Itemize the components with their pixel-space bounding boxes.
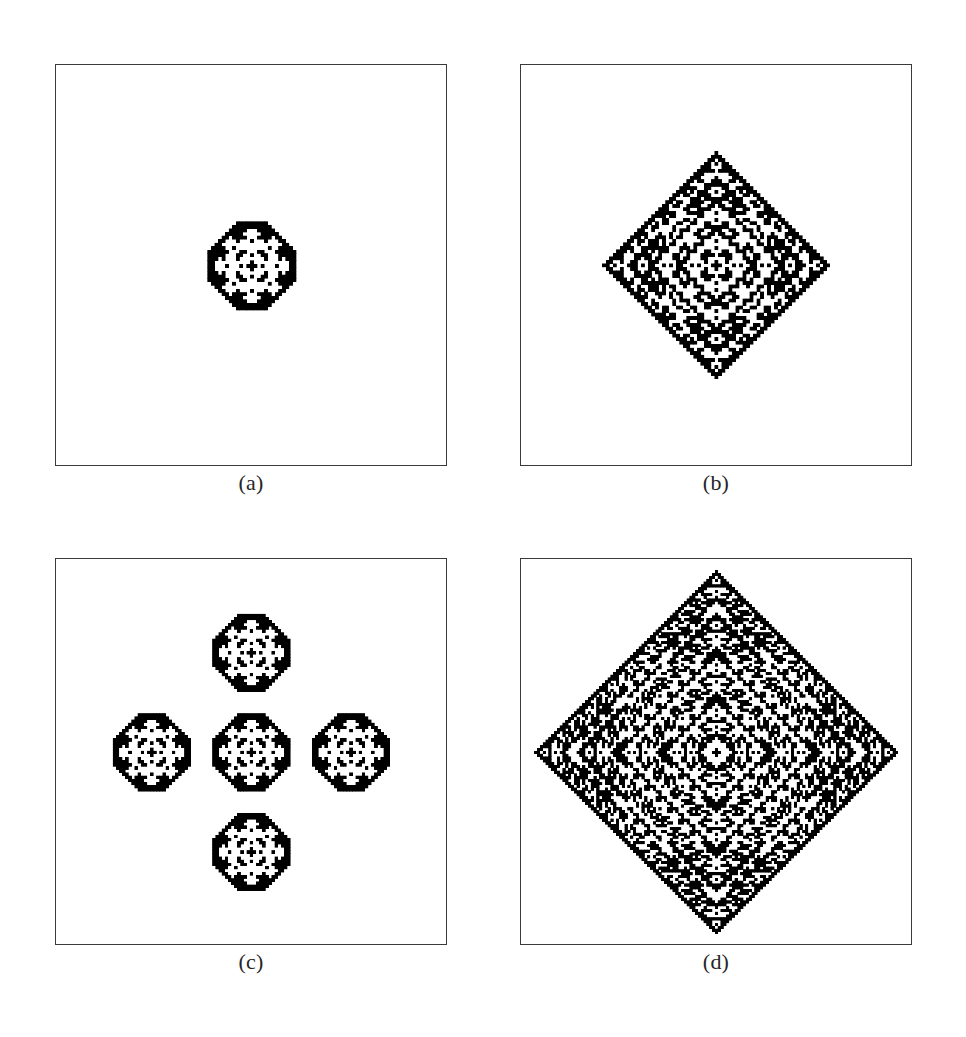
pattern-canvas-a (193, 207, 310, 324)
panel-b-caption: (b) (520, 470, 912, 496)
panel-d-caption: (d) (520, 949, 912, 975)
pattern-canvas-b (602, 151, 830, 379)
panel-d: (d) (520, 558, 912, 945)
panel-a: (a) (55, 64, 447, 466)
figure-container: (a) (b) (c) (d) (0, 0, 966, 1037)
pattern-canvas-d (534, 570, 898, 934)
panel-b: (b) (520, 64, 912, 466)
panel-a-caption: (a) (55, 470, 447, 496)
pattern-canvas-c (100, 601, 402, 903)
panel-c-caption: (c) (55, 949, 447, 975)
panel-c: (c) (55, 558, 447, 945)
